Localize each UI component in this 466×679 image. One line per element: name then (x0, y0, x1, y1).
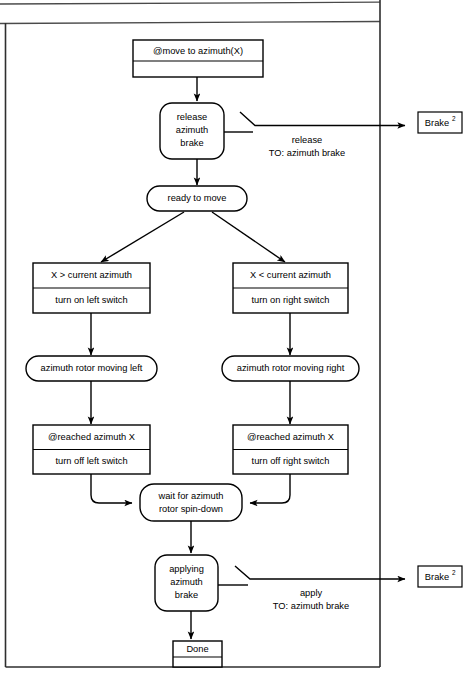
external-ref-brake-bottom-superscript: 2 (452, 569, 456, 576)
node-wait-spindown[interactable]: wait for azimuth rotor spin-down (140, 484, 242, 521)
node-release-azimuth-brake[interactable]: release azimuth brake (160, 103, 224, 159)
node-reached-left-row1: @reached azimuth X (48, 432, 135, 442)
node-cond-right-row1: X < current azimuth (250, 270, 331, 280)
node-reached-right[interactable]: @reached azimuth X turn off right switch (233, 425, 348, 474)
node-start-label: @move to azimuth(X) (153, 46, 243, 56)
node-release-brake-line2: azimuth (176, 125, 209, 135)
node-cond-left-row2: turn on left switch (55, 295, 127, 305)
edge-reached-right-to-wait (250, 474, 290, 503)
flowchart-canvas: @move to azimuth(X) release azimuth brak… (0, 0, 466, 679)
node-wait-spindown-shape (140, 484, 242, 521)
external-ref-brake-top-superscript: 2 (452, 115, 456, 122)
node-cond-left-row1: X > current azimuth (51, 270, 132, 280)
frame-top-outer-line (0, 2, 380, 4)
edge-ready-to-cond-right (212, 212, 285, 262)
edge-ready-to-cond-left (101, 212, 184, 262)
node-applying-azimuth-brake[interactable]: applying azimuth brake (155, 555, 218, 611)
node-wait-spindown-line1: wait for azimuth (157, 491, 223, 501)
node-done[interactable]: Done (173, 641, 222, 667)
node-ready-label: ready to move (168, 193, 227, 203)
node-start[interactable]: @move to azimuth(X) (133, 40, 263, 77)
external-ref-brake-top[interactable]: Brake 2 (418, 112, 462, 133)
node-done-label: Done (186, 644, 208, 654)
node-applying-brake-line2: azimuth (170, 577, 203, 587)
apply-msg-line2: TO: azimuth brake (273, 601, 349, 611)
external-ref-brake-bottom[interactable]: Brake 2 (418, 566, 462, 587)
edge-label-apply-message: apply TO: azimuth brake (273, 588, 349, 611)
node-moving-right[interactable]: azimuth rotor moving right (222, 356, 359, 381)
frame-top-inner-line (0, 22, 380, 24)
node-reached-left-row2: turn off left switch (55, 456, 127, 466)
node-applying-brake-line3: brake (175, 590, 198, 600)
node-reached-right-row2: turn off right switch (252, 456, 330, 466)
diagram-page: @move to azimuth(X) release azimuth brak… (0, 0, 466, 679)
release-msg-line1: release (292, 135, 323, 145)
node-moving-left-label: azimuth rotor moving left (41, 363, 143, 373)
node-cond-left[interactable]: X > current azimuth turn on left switch (33, 263, 150, 313)
node-release-brake-line3: brake (180, 138, 203, 148)
node-cond-right-row2: turn on right switch (251, 295, 329, 305)
edge-label-release-message: release TO: azimuth brake (269, 135, 345, 158)
node-release-brake-line1: release (177, 112, 208, 122)
node-ready-to-move[interactable]: ready to move (147, 186, 247, 211)
external-ref-brake-top-label: Brake (425, 118, 449, 128)
node-moving-left[interactable]: azimuth rotor moving left (26, 356, 157, 381)
node-wait-spindown-line2: rotor spin-down (159, 504, 223, 514)
node-reached-right-row1: @reached azimuth X (247, 432, 334, 442)
node-reached-left[interactable]: @reached azimuth X turn off left switch (33, 425, 150, 474)
apply-msg-line1: apply (300, 588, 323, 598)
edge-reached-left-to-wait (91, 474, 132, 503)
release-msg-line2: TO: azimuth brake (269, 148, 345, 158)
node-cond-right[interactable]: X < current azimuth turn on right switch (233, 263, 348, 313)
node-applying-brake-line1: applying (169, 564, 204, 574)
node-moving-right-label: azimuth rotor moving right (237, 363, 345, 373)
external-ref-brake-bottom-label: Brake (425, 572, 449, 582)
